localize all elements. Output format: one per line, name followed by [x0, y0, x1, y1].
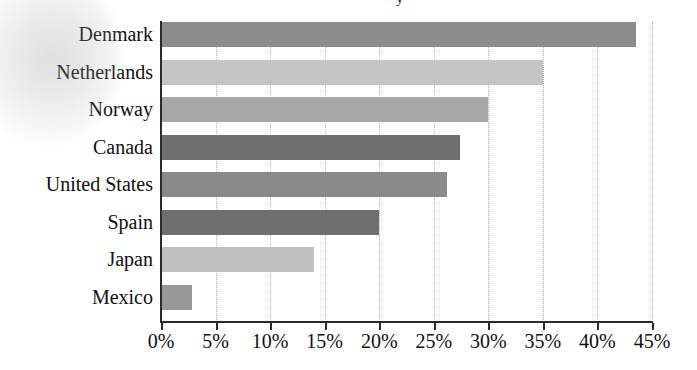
cropped-chart-title: y	[0, 0, 697, 9]
xtick-label-15pct: 15%	[306, 330, 343, 353]
xtick-label-5pct: 5%	[202, 330, 229, 353]
category-label-norway: Norway	[89, 97, 153, 122]
tick-20pct	[379, 323, 381, 330]
xtick-label-20pct: 20%	[361, 330, 398, 353]
tick-0pct	[161, 323, 163, 330]
bar-norway[interactable]	[161, 97, 488, 122]
category-label-japan: Japan	[107, 247, 153, 272]
chart-title-fragment: y	[396, 0, 405, 7]
xtick-label-40pct: 40%	[579, 330, 616, 353]
category-axis-labels: DenmarkNetherlandsNorwayCanadaUnited Sta…	[0, 22, 153, 322]
bar-series	[161, 22, 652, 322]
tick-35pct	[543, 323, 545, 330]
tick-40pct	[597, 323, 599, 330]
bar-canada[interactable]	[161, 135, 460, 160]
category-label-netherlands: Netherlands	[56, 60, 153, 85]
xtick-label-30pct: 30%	[470, 330, 507, 353]
tick-45pct	[652, 323, 654, 330]
category-label-spain: Spain	[107, 210, 153, 235]
category-label-united-states: United States	[46, 172, 153, 197]
bar-denmark[interactable]	[161, 22, 636, 47]
category-label-mexico: Mexico	[92, 285, 153, 310]
bar-united-states[interactable]	[161, 172, 447, 197]
tick-25pct	[434, 323, 436, 330]
x-axis-tick-labels: 0%5%10%15%20%25%30%35%40%45%	[0, 330, 697, 360]
bar-japan[interactable]	[161, 247, 314, 272]
tick-10pct	[270, 323, 272, 330]
category-label-canada: Canada	[93, 135, 153, 160]
x-axis-ticks	[161, 323, 652, 330]
xtick-label-10pct: 10%	[252, 330, 289, 353]
bar-spain[interactable]	[161, 210, 379, 235]
xtick-label-0pct: 0%	[148, 330, 175, 353]
category-label-denmark: Denmark	[79, 22, 153, 47]
bar-chart: DenmarkNetherlandsNorwayCanadaUnited Sta…	[0, 0, 697, 370]
bar-netherlands[interactable]	[161, 60, 543, 85]
plot-area	[161, 22, 652, 322]
tick-5pct	[216, 323, 218, 330]
gridline-45pct	[652, 22, 654, 322]
tick-30pct	[488, 323, 490, 330]
tick-15pct	[325, 323, 327, 330]
bar-mexico[interactable]	[161, 285, 192, 310]
xtick-label-45pct: 45%	[634, 330, 671, 353]
xtick-label-25pct: 25%	[415, 330, 452, 353]
y-axis-line	[160, 21, 162, 323]
xtick-label-35pct: 35%	[525, 330, 562, 353]
